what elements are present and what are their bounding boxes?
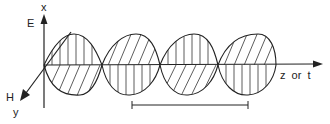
h-axis <box>20 32 71 101</box>
e-field-label: E <box>27 17 34 29</box>
h-axis-arrow-icon <box>20 89 30 101</box>
wave-lobe-4 <box>218 32 278 98</box>
y-axis-label: y <box>13 106 19 118</box>
z-axis <box>44 61 323 68</box>
em-wave-diagram: x E H y z or t <box>0 0 330 124</box>
wave-lobe-1 <box>44 30 102 98</box>
propagation-axis-label: z or t <box>280 69 311 81</box>
h-field-label: H <box>6 91 14 103</box>
wavelength-marker <box>132 101 248 109</box>
z-axis-arrow-icon <box>313 61 323 68</box>
x-axis-label: x <box>41 1 47 13</box>
x-axis-arrow-icon <box>41 14 48 24</box>
